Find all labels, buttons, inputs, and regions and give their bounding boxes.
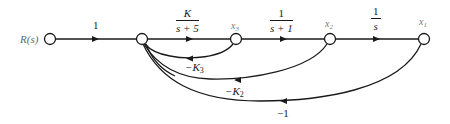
node-label-x2: x2 — [325, 19, 333, 31]
node-label-x3: x3 — [231, 21, 239, 33]
arrow-right-icon — [92, 36, 99, 42]
signal-flow-graph — [0, 0, 450, 124]
feedback-branch-x3-n1 — [145, 44, 233, 62]
node-label-x1: x1 — [419, 17, 427, 29]
forward-branch-r-n1 — [56, 36, 136, 42]
node-x3 — [231, 34, 242, 45]
node-label-r: R(s) — [20, 34, 38, 45]
arrow-right-icon — [186, 36, 193, 42]
forward-branch-x2-x1 — [336, 36, 418, 42]
gain-label-x2-x1: 1 s — [371, 6, 381, 32]
gain-label-n1-x3: K s + 5 — [176, 8, 199, 34]
gain-label-x1-n1: −1 — [277, 108, 289, 119]
node-x2 — [325, 34, 336, 45]
gain-label-r-n1: 1 — [93, 20, 99, 31]
feedback-branch-x2-n1 — [144, 44, 327, 83]
arrow-left-icon — [280, 98, 287, 104]
forward-branch-x3-x2 — [242, 36, 324, 42]
forward-branch-n1-x3 — [148, 36, 230, 42]
gain-label-x3-x2: 1 s + 1 — [270, 8, 293, 34]
node-x1 — [419, 34, 430, 45]
gain-label-x3-n1: −K3 — [185, 62, 204, 75]
node-r — [45, 34, 56, 45]
gain-label-x2-n1: −K2 — [225, 86, 244, 99]
arrow-right-icon — [280, 36, 287, 42]
arrow-right-icon — [373, 36, 380, 42]
node-summing — [137, 34, 148, 45]
